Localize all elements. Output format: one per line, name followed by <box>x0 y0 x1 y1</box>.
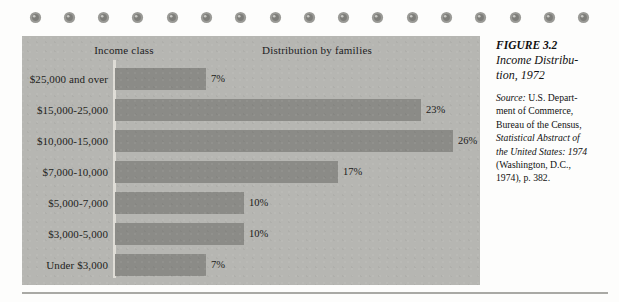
source-work-line-1: Statistical Abstract of <box>496 132 580 143</box>
bar-category-label: $5,000-7,000 <box>22 188 108 218</box>
rosette-ornament-icon <box>543 11 556 24</box>
rosette-ornament-icon <box>474 11 487 24</box>
ornament-row <box>0 6 619 28</box>
figure-title-line-2: tion, 1972 <box>496 68 545 82</box>
source-work-line-2: the United States: 1974 <box>496 146 587 157</box>
source-line-3: Bureau of the Census, <box>496 119 582 130</box>
bar <box>115 192 244 214</box>
chart-panel: Income class Distribution by families $2… <box>22 36 480 285</box>
source-line-5: 1974), p. 382. <box>496 172 550 183</box>
figure-caption-block: FIGURE 3.2 Income Distribu- tion, 1972 S… <box>496 38 608 185</box>
source-line-4: (Washington, D.C., <box>496 159 571 170</box>
rosette-ornament-icon <box>29 11 42 24</box>
bar-value-label: 10% <box>244 188 268 218</box>
figure-source-note: Source: U.S. Depart- ment of Commerce, B… <box>496 91 608 185</box>
bar-value-label: 23% <box>421 95 445 125</box>
rosette-ornament-icon <box>509 11 522 24</box>
table-row: $25,000 and over 7% <box>22 64 480 94</box>
bar <box>115 68 206 90</box>
bar-value-label: 7% <box>206 64 225 94</box>
rosette-ornament-icon <box>269 11 282 24</box>
bar-track: 23% <box>115 95 476 125</box>
table-row: $7,000-10,000 17% <box>22 157 480 187</box>
table-row: $5,000-7,000 10% <box>22 188 480 218</box>
rosette-ornament-icon <box>166 11 179 24</box>
bar-category-label: $10,000-15,000 <box>22 126 108 156</box>
bar-track: 10% <box>115 219 476 249</box>
rosette-ornament-icon <box>371 11 384 24</box>
rosette-ornament-icon <box>577 11 590 24</box>
rosette-ornament-icon <box>200 11 213 24</box>
rosette-ornament-icon <box>97 11 110 24</box>
bar-category-label: $15,000-25,000 <box>22 95 108 125</box>
rosette-ornament-icon <box>440 11 453 24</box>
column-header-distribution: Distribution by families <box>172 44 462 56</box>
figure-title: Income Distribu- tion, 1972 <box>496 53 608 82</box>
table-row: $15,000-25,000 23% <box>22 95 480 125</box>
bar-category-label: $7,000-10,000 <box>22 157 108 187</box>
bar <box>115 99 421 121</box>
table-row: $3,000-5,000 10% <box>22 219 480 249</box>
rosette-ornament-icon <box>63 11 76 24</box>
bar-rows: $25,000 and over 7% $15,000-25,000 23% $… <box>22 64 480 281</box>
bar-track: 26% <box>115 126 476 156</box>
bar-category-label: Under $3,000 <box>22 250 108 280</box>
bar-category-label: $25,000 and over <box>22 64 108 94</box>
bar-track: 7% <box>115 250 476 280</box>
bar-track: 10% <box>115 188 476 218</box>
figure-number: FIGURE 3.2 <box>496 38 608 52</box>
bar-track: 7% <box>115 64 476 94</box>
rosette-ornament-icon <box>131 11 144 24</box>
bar <box>115 254 206 276</box>
source-line-2: ment of Commerce, <box>496 105 573 116</box>
rosette-ornament-icon <box>406 11 419 24</box>
figure-title-line-1: Income Distribu- <box>496 53 578 67</box>
bar-track: 17% <box>115 157 476 187</box>
table-row: $10,000-15,000 26% <box>22 126 480 156</box>
bottom-divider <box>22 292 608 294</box>
bar-value-label: 17% <box>338 157 362 187</box>
bar-category-label: $3,000-5,000 <box>22 219 108 249</box>
source-line-1: U.S. Depart- <box>526 92 578 103</box>
bar <box>115 161 338 183</box>
rosette-ornament-icon <box>303 11 316 24</box>
source-label: Source: <box>496 92 526 103</box>
bar <box>115 223 244 245</box>
table-row: Under $3,000 7% <box>22 250 480 280</box>
rosette-ornament-icon <box>234 11 247 24</box>
bar-value-label: 26% <box>453 126 477 156</box>
bar-value-label: 7% <box>206 250 225 280</box>
bar <box>115 130 453 152</box>
bar-value-label: 10% <box>244 219 268 249</box>
rosette-ornament-icon <box>337 11 350 24</box>
